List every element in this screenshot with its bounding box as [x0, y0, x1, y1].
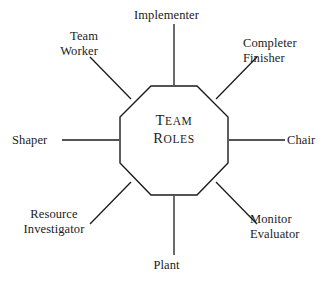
node-label-shaper: Shaper: [12, 133, 74, 148]
node-label-plant: Plant: [0, 258, 333, 273]
node-label-completer-finisher-line-2: Finisher: [243, 51, 331, 66]
node-label-chair: Chair: [287, 133, 331, 148]
team-roles-diagram: TEAM ROLES Implementer Team Worker Compl…: [0, 0, 333, 287]
center-label: TEAM ROLES: [124, 112, 224, 148]
node-label-resource-investigator-line-1: Resource: [8, 207, 100, 222]
center-label-line-2-cap: R: [153, 130, 163, 146]
center-label-line-1: TEAM: [124, 112, 224, 130]
node-label-completer-finisher: Completer Finisher: [243, 36, 331, 65]
center-label-line-2: ROLES: [124, 130, 224, 148]
node-label-monitor-evaluator-line-2: Evaluator: [250, 227, 333, 242]
node-label-implementer: Implementer: [0, 8, 333, 23]
node-label-team-worker: Team Worker: [18, 29, 98, 58]
center-label-line-1-cap: T: [156, 112, 165, 128]
node-label-plant-line-1: Plant: [0, 258, 333, 273]
node-label-implementer-line-1: Implementer: [0, 8, 333, 23]
node-label-team-worker-line-1: Team: [18, 29, 98, 44]
node-label-monitor-evaluator-line-1: Monitor: [250, 212, 333, 227]
center-label-line-1-rest: EAM: [165, 115, 192, 127]
node-label-chair-line-1: Chair: [287, 133, 331, 148]
connector-team-worker: [90, 57, 131, 99]
node-label-resource-investigator-line-2: Investigator: [8, 222, 100, 237]
center-label-line-2-rest: OLES: [164, 133, 195, 145]
node-label-resource-investigator: Resource Investigator: [8, 207, 100, 236]
node-label-team-worker-line-2: Worker: [18, 44, 98, 59]
node-label-completer-finisher-line-1: Completer: [243, 36, 331, 51]
node-label-shaper-line-1: Shaper: [12, 133, 74, 148]
node-label-monitor-evaluator: Monitor Evaluator: [250, 212, 333, 241]
